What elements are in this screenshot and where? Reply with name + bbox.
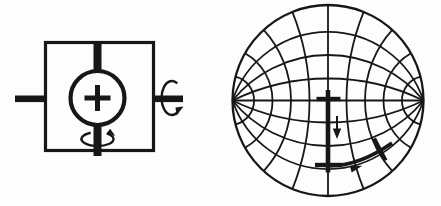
bottom-shaft <box>94 123 102 156</box>
top-shaft <box>94 42 102 73</box>
figure-canvas <box>0 0 441 206</box>
left-shaft <box>15 96 46 103</box>
right-shaft <box>154 96 184 103</box>
figure-svg <box>0 0 441 206</box>
stereonet <box>233 5 424 196</box>
